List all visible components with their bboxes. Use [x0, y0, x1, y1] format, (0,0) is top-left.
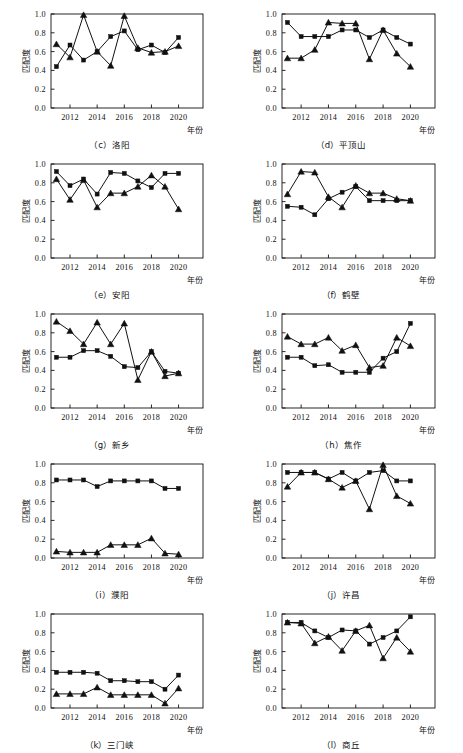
triangle-marker: [121, 320, 128, 326]
y-tick-label: 1.0: [266, 460, 277, 469]
square-marker: [149, 479, 153, 483]
triangle-marker: [284, 191, 291, 197]
chart-svg-l: 0.00.20.40.60.81.020122014201620182020匹配…: [231, 600, 463, 753]
square-marker: [122, 679, 126, 683]
triangle-marker: [407, 343, 414, 349]
chart-svg-h: 0.00.20.40.60.81.020122014201620182020匹配…: [231, 300, 463, 450]
x-tick-label: 2018: [374, 713, 392, 722]
square-marker: [408, 615, 412, 619]
chart-panel-c: 0.00.20.40.60.81.020122014201620182020匹配…: [0, 0, 231, 150]
square-marker: [177, 171, 181, 175]
chart-panel-f: 0.00.20.40.60.81.020122014201620182020匹配…: [231, 150, 463, 300]
series-line-triangle: [56, 322, 178, 380]
triangle-marker: [380, 27, 387, 33]
panel-caption-k: （k）三门峡: [85, 740, 135, 750]
y-tick-label: 0.6: [35, 48, 46, 57]
square-marker: [68, 355, 72, 359]
y-axis-title: 匹配度: [252, 649, 262, 673]
y-axis-title: 匹配度: [252, 349, 262, 373]
y-tick-label: 0.2: [266, 85, 277, 94]
x-tick-label: 2014: [320, 563, 338, 572]
triangle-marker: [353, 183, 360, 189]
y-tick-label: 0.0: [35, 554, 46, 563]
x-tick-label: 2016: [115, 263, 133, 272]
chart-panel-g: 0.00.20.40.60.81.020122014201620182020匹配…: [0, 300, 231, 450]
y-tick-label: 0.6: [35, 648, 46, 657]
chart-svg-k: 0.00.20.40.60.81.020122014201620182020匹配…: [0, 600, 231, 753]
y-tick-label: 0.8: [266, 179, 277, 188]
x-tick-label: 2014: [320, 413, 338, 422]
square-marker: [122, 479, 126, 483]
x-axis-title: 年份: [419, 275, 435, 285]
y-axis-title: 匹配度: [21, 499, 31, 523]
x-tick-label: 2018: [143, 563, 161, 572]
square-marker: [326, 35, 330, 39]
plot-frame: [282, 164, 435, 258]
x-tick-label: 2012: [61, 713, 79, 722]
square-marker: [82, 670, 86, 674]
x-axis-title: 年份: [419, 575, 435, 585]
chart-svg-i: 0.00.20.40.60.81.020122014201620182020匹配…: [0, 450, 231, 600]
y-tick-label: 1.0: [35, 460, 46, 469]
chart-panel-h: 0.00.20.40.60.81.020122014201620182020匹配…: [231, 300, 463, 450]
square-marker: [395, 629, 399, 633]
y-tick-label: 0.4: [35, 366, 46, 375]
panel-caption-c: （c）洛阳: [89, 140, 130, 150]
square-marker: [395, 36, 399, 40]
y-tick-label: 0.6: [266, 48, 277, 57]
series-line-triangle: [56, 538, 178, 554]
series-line-triangle: [287, 622, 410, 658]
x-tick-label: 2012: [292, 563, 310, 572]
square-marker: [109, 679, 113, 683]
series-line-square: [56, 351, 178, 374]
y-tick-label: 0.4: [266, 666, 277, 675]
y-tick-label: 0.2: [266, 385, 277, 394]
y-tick-label: 0.8: [266, 479, 277, 488]
square-marker: [122, 171, 126, 175]
y-tick-label: 0.6: [266, 348, 277, 357]
panel-caption-j: （j）许昌: [322, 590, 360, 600]
plot-frame: [282, 314, 435, 408]
x-tick-label: 2020: [170, 263, 188, 272]
triangle-marker: [94, 684, 101, 690]
square-marker: [149, 680, 153, 684]
x-tick-label: 2012: [292, 713, 310, 722]
chart-svg-g: 0.00.20.40.60.81.020122014201620182020匹配…: [0, 300, 231, 450]
square-marker: [54, 478, 58, 482]
triangle-marker: [53, 41, 60, 47]
square-marker: [299, 35, 303, 39]
series-line-square: [56, 31, 178, 67]
triangle-marker: [312, 640, 319, 646]
square-marker: [313, 35, 317, 39]
x-tick-label: 2012: [292, 413, 310, 422]
series-line-triangle: [287, 337, 410, 368]
x-tick-label: 2014: [320, 113, 338, 122]
triangle-marker: [175, 206, 182, 212]
x-tick-label: 2020: [170, 563, 188, 572]
y-axis-title: 匹配度: [21, 49, 31, 73]
y-tick-label: 0.8: [35, 329, 46, 338]
series-line-triangle: [56, 687, 178, 703]
x-tick-label: 2012: [292, 263, 310, 272]
x-tick-label: 2016: [347, 413, 365, 422]
triangle-marker: [394, 334, 401, 340]
square-marker: [381, 356, 385, 360]
y-tick-label: 0.8: [35, 29, 46, 38]
square-marker: [68, 670, 72, 674]
y-tick-label: 0.0: [35, 254, 46, 263]
series-line-square: [56, 480, 178, 488]
x-tick-label: 2020: [170, 413, 188, 422]
triangle-marker: [325, 476, 332, 482]
series-line-triangle: [287, 22, 410, 66]
square-marker: [149, 186, 153, 190]
y-tick-label: 0.6: [266, 498, 277, 507]
y-tick-label: 0.4: [35, 216, 46, 225]
x-tick-label: 2018: [143, 263, 161, 272]
y-tick-label: 1.0: [266, 160, 277, 169]
x-tick-label: 2020: [402, 113, 420, 122]
chart-svg-c: 0.00.20.40.60.81.020122014201620182020匹配…: [0, 0, 231, 150]
square-marker: [54, 355, 58, 359]
x-tick-label: 2014: [88, 413, 106, 422]
triangle-marker: [107, 341, 114, 347]
chart-svg-e: 0.00.20.40.60.81.020122014201620182020匹配…: [0, 150, 231, 300]
